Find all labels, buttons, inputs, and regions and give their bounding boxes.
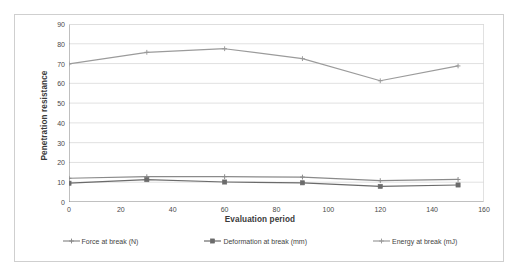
chart-plot-region: Penetration resistance 01020304050607080… [15,15,505,263]
y-tick-label: 0 [61,199,65,206]
x-axis-title: Evaluation period [15,215,505,224]
data-point-marker [145,178,149,182]
legend-marker-icon [63,237,80,245]
x-tick-label: 0 [67,206,71,213]
data-point-marker [223,180,227,184]
data-point-marker [144,50,149,55]
y-tick-label: 10 [57,179,65,186]
plot-area: 0102030405060708090020406080100120140160 [69,24,484,202]
x-tick-label: 120 [374,206,386,213]
y-tick-label: 20 [57,159,65,166]
data-point-marker [69,181,71,185]
data-point-marker [300,181,304,185]
legend-label: Energy at break (mJ) [392,238,457,245]
data-point-marker [300,175,305,180]
x-tick-label: 100 [323,206,335,213]
chart-frame: Penetration resistance 01020304050607080… [14,14,504,262]
y-tick-label: 40 [57,119,65,126]
legend-label: Deformation at break (mm) [223,238,307,245]
chart-legend: Force at break (N)Deformation at break (… [15,237,505,245]
data-point-marker [300,56,305,61]
y-tick-label: 30 [57,139,65,146]
y-tick-label: 90 [57,21,65,28]
data-point-marker [456,183,460,187]
legend-marker-icon [373,237,390,245]
chart-canvas [69,24,484,202]
legend-item[interactable]: Force at break (N) [63,237,139,245]
data-point-marker [69,62,71,67]
series-line [69,49,458,81]
data-point-marker [222,46,227,51]
legend-item[interactable]: Energy at break (mJ) [373,237,457,245]
legend-marker-icon [204,237,221,245]
x-tick-label: 20 [117,206,125,213]
data-point-marker [378,184,382,188]
y-axis-title: Penetration resistance [40,41,49,191]
y-tick-label: 50 [57,100,65,107]
legend-label: Force at break (N) [82,238,139,245]
data-point-marker [378,78,383,83]
x-tick-label: 40 [169,206,177,213]
y-tick-label: 70 [57,60,65,67]
y-tick-label: 60 [57,80,65,87]
data-point-marker [456,177,461,182]
x-tick-label: 140 [426,206,438,213]
x-tick-label: 160 [478,206,490,213]
legend-item[interactable]: Deformation at break (mm) [204,237,307,245]
x-tick-label: 80 [273,206,281,213]
data-point-marker [222,174,227,179]
data-point-marker [456,64,461,69]
x-tick-label: 60 [221,206,229,213]
y-tick-label: 80 [57,40,65,47]
data-point-marker [69,176,71,181]
